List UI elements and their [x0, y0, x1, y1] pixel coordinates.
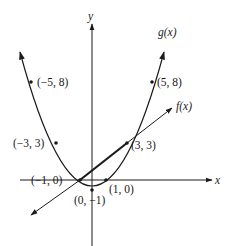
label-neg1-0: (−1, 0)	[31, 174, 63, 187]
f-line-segment	[80, 143, 127, 180]
label-1-0: (1, 0)	[109, 183, 134, 196]
label-0-neg1: (0, −1)	[74, 194, 106, 207]
point-neg3-3	[54, 141, 58, 145]
point-neg5-8	[29, 80, 33, 84]
label-3-3: (3, 3)	[131, 139, 156, 152]
point-3-3	[125, 141, 129, 145]
g-label: g(x)	[158, 26, 177, 39]
point-5-8	[150, 80, 154, 84]
point-neg1-0	[78, 178, 82, 182]
label-5-8: (5, 8)	[157, 76, 182, 89]
point-1-0	[104, 178, 108, 182]
f-line-upper	[127, 108, 172, 143]
point-0-neg1	[90, 188, 94, 192]
label-neg3-3: (−3, 3)	[13, 137, 45, 150]
function-graph: x y g(x) f(x) (−5, 8) (5, 8) (−3, 3) (3,…	[0, 0, 225, 246]
f-label: f(x)	[176, 100, 192, 113]
x-axis-label: x	[214, 174, 221, 186]
y-axis-label: y	[87, 10, 94, 23]
label-neg5-8: (−5, 8)	[37, 76, 69, 89]
